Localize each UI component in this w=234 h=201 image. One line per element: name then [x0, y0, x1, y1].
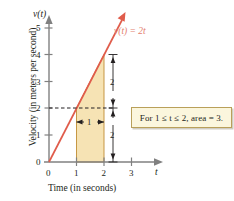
velocity-time-figure: v(t) 0 1 2 3 4 5 0 1 2 3 t Time (in seco…	[0, 0, 234, 201]
y-axis-title-wrapper: Velocity (in meters per second)	[22, 12, 40, 162]
height-dimension-bracket	[109, 55, 118, 163]
y-axis-title: Velocity (in meters per second)	[28, 28, 38, 147]
x-tick-label-3: 3	[129, 169, 134, 178]
y-axis-arrowhead	[45, 15, 52, 24]
upper-height-dimension-label: 2	[110, 78, 114, 87]
area-callout-box: For 1 ≤ t ≤ 2, area = 3.	[131, 107, 232, 128]
x-tick-label-1: 1	[74, 169, 79, 178]
width-dimension-label: 1	[87, 118, 91, 127]
x-tick-label-0: 0	[46, 169, 51, 178]
x-tick-label-2: 2	[102, 169, 107, 178]
area-callout-text: For 1 ≤ t ≤ 2, area = 3.	[140, 113, 223, 123]
x-axis-title: Time (in seconds)	[48, 184, 116, 194]
x-axis-variable-label: t	[155, 168, 158, 178]
line-equation-label: v(t) = 2t	[114, 27, 146, 37]
x-axis-arrowhead	[154, 158, 163, 165]
lower-height-dimension-label: 2	[110, 131, 114, 140]
